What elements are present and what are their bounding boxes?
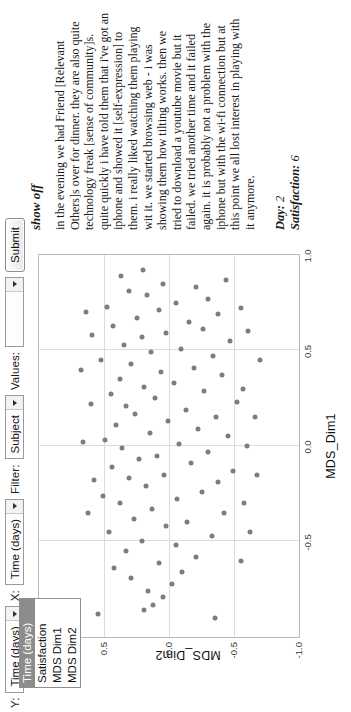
- data-point[interactable]: [178, 346, 183, 351]
- data-point[interactable]: [144, 293, 149, 298]
- data-point[interactable]: [143, 484, 148, 489]
- data-point[interactable]: [111, 323, 116, 328]
- data-point[interactable]: [221, 510, 226, 515]
- data-point[interactable]: [118, 274, 123, 279]
- data-point[interactable]: [89, 401, 94, 406]
- data-point[interactable]: [100, 493, 105, 498]
- values-select[interactable]: [5, 277, 24, 347]
- data-point[interactable]: [258, 358, 263, 363]
- data-point[interactable]: [104, 304, 109, 309]
- data-point[interactable]: [224, 277, 229, 282]
- plot-canvas[interactable]: [38, 254, 300, 638]
- data-point[interactable]: [148, 350, 153, 355]
- data-point[interactable]: [211, 354, 216, 359]
- data-point[interactable]: [209, 533, 214, 538]
- data-point[interactable]: [185, 520, 190, 525]
- data-point[interactable]: [164, 524, 169, 529]
- data-point[interactable]: [126, 289, 131, 294]
- data-point[interactable]: [86, 510, 91, 515]
- data-point[interactable]: [117, 377, 122, 382]
- data-point[interactable]: [124, 403, 129, 408]
- data-point[interactable]: [189, 461, 194, 466]
- data-point[interactable]: [200, 327, 205, 332]
- data-point[interactable]: [159, 369, 164, 374]
- data-point[interactable]: [152, 396, 157, 401]
- data-point[interactable]: [183, 407, 188, 412]
- data-point[interactable]: [126, 476, 131, 481]
- data-point[interactable]: [107, 529, 112, 534]
- data-point[interactable]: [142, 384, 147, 389]
- data-point[interactable]: [202, 388, 207, 393]
- data-point[interactable]: [113, 423, 118, 428]
- data-point[interactable]: [161, 472, 166, 477]
- data-point[interactable]: [245, 444, 250, 449]
- data-point[interactable]: [177, 442, 182, 447]
- data-point[interactable]: [124, 549, 129, 554]
- data-point[interactable]: [160, 281, 165, 286]
- data-point[interactable]: [238, 558, 243, 563]
- data-point[interactable]: [103, 438, 108, 443]
- data-point[interactable]: [180, 570, 185, 575]
- data-point[interactable]: [206, 449, 211, 454]
- data-point[interactable]: [225, 434, 230, 439]
- data-point[interactable]: [169, 581, 174, 586]
- data-point[interactable]: [151, 602, 156, 607]
- data-point[interactable]: [191, 365, 196, 370]
- data-point[interactable]: [112, 566, 117, 571]
- data-point[interactable]: [160, 594, 165, 599]
- data-point[interactable]: [252, 415, 257, 420]
- data-point[interactable]: [216, 312, 221, 317]
- data-point[interactable]: [174, 497, 179, 502]
- data-point[interactable]: [146, 589, 151, 594]
- data-point[interactable]: [194, 554, 199, 559]
- data-point[interactable]: [246, 329, 251, 334]
- data-point[interactable]: [78, 367, 83, 372]
- data-point[interactable]: [95, 612, 100, 617]
- data-point[interactable]: [109, 465, 114, 470]
- data-point[interactable]: [155, 453, 160, 458]
- data-point[interactable]: [172, 380, 177, 385]
- data-point[interactable]: [90, 333, 95, 338]
- data-point[interactable]: [247, 529, 252, 534]
- data-point[interactable]: [108, 392, 113, 397]
- data-point[interactable]: [137, 457, 142, 462]
- data-point[interactable]: [156, 308, 161, 313]
- data-point[interactable]: [150, 507, 155, 512]
- data-point[interactable]: [164, 331, 169, 336]
- chevron-down-icon[interactable]: [6, 500, 23, 514]
- data-point[interactable]: [238, 306, 243, 311]
- data-point[interactable]: [141, 268, 146, 273]
- dropdown-option[interactable]: MDS Dim2: [65, 599, 80, 687]
- data-point[interactable]: [186, 319, 191, 324]
- chevron-down-icon[interactable]: [6, 278, 23, 292]
- data-point[interactable]: [234, 400, 239, 405]
- data-point[interactable]: [156, 560, 161, 565]
- data-point[interactable]: [194, 285, 199, 290]
- data-point[interactable]: [139, 335, 144, 340]
- data-point[interactable]: [133, 411, 138, 416]
- submit-button[interactable]: Submit: [5, 218, 25, 272]
- data-point[interactable]: [241, 386, 246, 391]
- data-point[interactable]: [242, 501, 247, 506]
- chevron-down-icon[interactable]: [6, 396, 23, 410]
- data-point[interactable]: [117, 501, 122, 506]
- data-point[interactable]: [142, 608, 147, 613]
- data-point[interactable]: [216, 480, 221, 485]
- dropdown-option[interactable]: MDS Dim1: [50, 599, 65, 687]
- data-point[interactable]: [206, 296, 211, 301]
- x-axis-select[interactable]: Time (days): [5, 499, 24, 585]
- data-point[interactable]: [199, 489, 204, 494]
- dropdown-option[interactable]: Time (days): [20, 599, 35, 687]
- data-point[interactable]: [83, 310, 88, 315]
- data-point[interactable]: [213, 415, 218, 420]
- data-point[interactable]: [129, 361, 134, 366]
- data-point[interactable]: [99, 358, 104, 363]
- data-point[interactable]: [255, 472, 260, 477]
- data-point[interactable]: [230, 468, 235, 473]
- data-point[interactable]: [147, 430, 152, 435]
- data-point[interactable]: [134, 316, 139, 321]
- filter-select[interactable]: Subject: [5, 395, 24, 459]
- data-point[interactable]: [120, 445, 125, 450]
- data-point[interactable]: [220, 373, 225, 378]
- data-point[interactable]: [81, 440, 86, 445]
